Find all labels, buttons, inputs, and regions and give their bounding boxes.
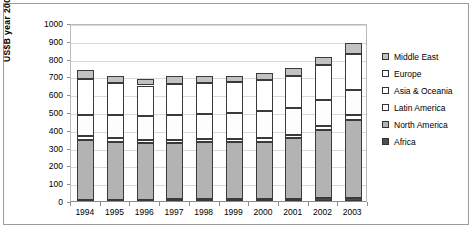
bar-segment (256, 73, 273, 80)
bar-stack (345, 23, 362, 201)
bar-segment (196, 199, 213, 201)
y-axis-tick-label: 500 (23, 109, 63, 117)
x-axis-tick-mark (189, 202, 190, 206)
bar-segment (166, 84, 183, 115)
x-axis-tick-mark (337, 202, 338, 206)
bar-stack (285, 23, 302, 201)
y-axis-tick-label: 0 (23, 198, 63, 206)
legend-item[interactable]: Asia & Oceania (382, 82, 474, 99)
bar-segment (285, 135, 302, 139)
bar-segment (226, 199, 243, 201)
y-axis-tick-label: 1000 (23, 20, 63, 28)
x-axis-tick-mark (308, 202, 309, 206)
bar-segment (166, 115, 183, 140)
bar-segment (137, 79, 154, 85)
bar-segment (166, 199, 183, 201)
bar-segment (285, 138, 302, 198)
bar-segment (107, 138, 124, 142)
y-axis-tick-label: 900 (23, 38, 63, 46)
chart-legend: Middle EastEuropeAsia & OceaniaLatin Ame… (382, 48, 474, 150)
bar-segment (196, 114, 213, 139)
y-axis-tick-label: 800 (23, 56, 63, 64)
bar-segment (285, 108, 302, 135)
legend-item[interactable]: Europe (382, 65, 474, 82)
bar-segment (137, 86, 154, 117)
bar-segment (196, 142, 213, 198)
x-axis-tick-mark (367, 202, 368, 206)
bar-stack (315, 23, 332, 201)
bar-segment (256, 80, 273, 111)
legend-item[interactable]: Middle East (382, 48, 474, 65)
bar-segment (166, 140, 183, 143)
bar-segment (315, 126, 332, 130)
bar-segment (345, 90, 362, 116)
bar-segment (137, 116, 154, 139)
bar-stack (166, 23, 183, 201)
legend-item[interactable]: North America (382, 116, 474, 133)
bar-segment (315, 198, 332, 201)
x-axis-tick-mark (70, 202, 71, 206)
bar-segment (315, 57, 332, 65)
y-axis-tick-label: 400 (23, 127, 63, 135)
bar-segment (137, 140, 154, 144)
x-axis-tick-mark (100, 202, 101, 206)
x-axis-tick-mark (159, 202, 160, 206)
bar-segment (315, 65, 332, 100)
legend-item-label: Europe (394, 69, 421, 79)
bar-stack (256, 23, 273, 201)
y-axis-tick-label: 700 (23, 73, 63, 81)
y-axis-title: US$B year 2000 (2, 0, 12, 62)
legend-item[interactable]: Latin America (382, 99, 474, 116)
bar-segment (226, 113, 243, 139)
x-axis-tick-mark (219, 202, 220, 206)
bar-segment (256, 138, 273, 142)
bar-segment (226, 82, 243, 113)
legend-swatch-icon (382, 87, 389, 94)
plot-area (70, 24, 367, 202)
legend-swatch-icon (382, 138, 389, 145)
bar-segment (345, 115, 362, 119)
bar-segment (166, 143, 183, 198)
bar-segment (137, 143, 154, 199)
bar-segment (315, 100, 332, 126)
chart-frame: US$B year 2000 0100200300400500600700800… (3, 3, 469, 225)
legend-item-label: Middle East (394, 52, 438, 62)
x-axis-tick-mark (248, 202, 249, 206)
bar-segment (77, 115, 94, 136)
legend-item-label: Africa (394, 137, 416, 147)
bar-segment (256, 199, 273, 201)
bar-segment (226, 142, 243, 198)
bar-segment (107, 76, 124, 83)
bar-segment (285, 76, 302, 108)
bar-stack (107, 23, 124, 201)
bar-segment (196, 139, 213, 142)
bar-segment (196, 83, 213, 114)
bar-stack (226, 23, 243, 201)
legend-item-label: Latin America (394, 103, 446, 113)
bar-segment (77, 140, 94, 200)
legend-swatch-icon (382, 104, 389, 111)
legend-item-label: Asia & Oceania (394, 86, 453, 96)
bar-segment (107, 83, 124, 115)
bar-segment (77, 79, 94, 115)
bar-segment (256, 111, 273, 138)
bar-segment (345, 198, 362, 201)
bar-segment (285, 68, 302, 76)
x-axis-tick-label: 2003 (332, 207, 372, 217)
bar-segment (77, 136, 94, 140)
y-axis-tick-label: 600 (23, 91, 63, 99)
bar-segment (196, 76, 213, 82)
bar-segment (345, 43, 362, 54)
bar-segment (226, 139, 243, 142)
bar-segment (315, 130, 332, 198)
bar-segment (107, 142, 124, 200)
bar-stack (77, 23, 94, 201)
bar-stack (137, 23, 154, 201)
legend-item-label: North America (394, 120, 448, 130)
bar-segment (166, 76, 183, 84)
bar-segment (77, 70, 94, 79)
x-axis-tick-mark (278, 202, 279, 206)
legend-item[interactable]: Africa (382, 133, 474, 150)
bar-segment (256, 142, 273, 199)
bar-segment (226, 76, 243, 82)
